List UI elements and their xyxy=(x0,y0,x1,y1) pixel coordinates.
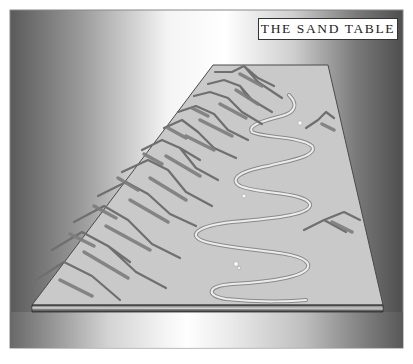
frame-bottom-glow xyxy=(10,312,403,348)
title-label: THE SAND TABLE xyxy=(258,18,398,40)
sand-table-illustration xyxy=(0,0,413,364)
